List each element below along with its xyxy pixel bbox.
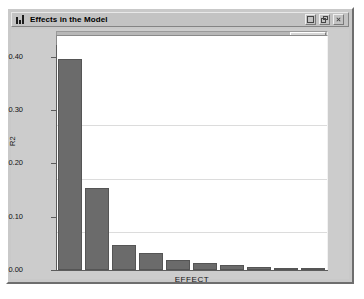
bar xyxy=(139,253,163,270)
window-titlebar[interactable]: Effects in the Model xyxy=(11,12,349,27)
y-axis-tick xyxy=(51,217,56,218)
y-axis-tick xyxy=(51,270,56,271)
y-axis-line xyxy=(56,45,57,271)
y-axis-tick-label: 0.10 xyxy=(8,213,23,221)
screenshot-root: Effects in the Model xyxy=(0,0,364,299)
y-axis-tick-label: 0.40 xyxy=(8,53,23,61)
window-controls xyxy=(305,14,344,25)
chart-canvas: 0.000.100.200.300.40 R2 EFFECT xyxy=(11,29,349,279)
bar xyxy=(85,188,109,270)
bar xyxy=(112,245,136,270)
bar-chart-icon xyxy=(15,14,26,25)
window-title: Effects in the Model xyxy=(30,14,108,25)
y-axis-tick xyxy=(51,57,56,58)
maximize-button[interactable] xyxy=(319,14,330,25)
y-axis-tick xyxy=(51,163,56,164)
bar xyxy=(166,260,190,270)
bar xyxy=(58,59,82,270)
y-axis-tick-label: 0.00 xyxy=(8,266,23,274)
bar xyxy=(193,263,217,270)
plot-area xyxy=(57,46,327,270)
y-axis-tick xyxy=(51,110,56,111)
close-button[interactable] xyxy=(333,14,344,25)
y-axis-title: R2 xyxy=(9,136,17,146)
bar-series xyxy=(57,46,327,270)
minimize-button[interactable] xyxy=(305,14,316,25)
chart-window: Effects in the Model xyxy=(6,7,354,284)
x-axis-line xyxy=(56,270,328,271)
y-axis-tick-label: 0.30 xyxy=(8,106,23,114)
x-axis-title: EFFECT xyxy=(56,275,328,285)
y-axis-tick-label: 0.20 xyxy=(8,159,23,167)
